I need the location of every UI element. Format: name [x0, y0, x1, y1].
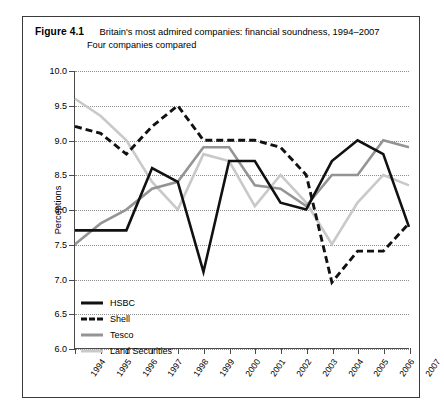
x-axis-tick-label: 1999: [217, 357, 236, 378]
x-axis-tick: [281, 348, 282, 354]
legend-item-label: Land Securities: [110, 346, 172, 356]
x-axis-tick: [255, 348, 256, 354]
legend-swatch-icon: [81, 330, 103, 341]
y-axis-tick-label: 8.0: [54, 205, 67, 215]
legend-item-label: HSBC: [110, 298, 135, 308]
legend-item: Shell: [81, 311, 221, 327]
y-axis-tick-label: 7.0: [54, 275, 67, 285]
legend-item: Tesco: [81, 327, 221, 343]
figure-subtitle: Four companies compared: [87, 39, 411, 51]
y-axis-tick-label: 6.0: [54, 344, 67, 354]
x-axis-tick-label: 2001: [269, 357, 288, 378]
x-axis-tick: [384, 348, 385, 354]
x-axis-tick: [307, 348, 308, 354]
x-axis-tick: [230, 348, 231, 354]
legend-swatch-icon: [81, 298, 103, 309]
figure-number: Figure 4.1: [35, 26, 84, 37]
chart-legend: HSBCShellTescoLand Securities: [81, 295, 221, 359]
x-axis-tick-label: 2000: [243, 357, 262, 378]
legend-item: HSBC: [81, 295, 221, 311]
x-axis-tick: [410, 348, 411, 354]
x-axis-tick-label: 2007: [423, 357, 442, 378]
y-axis-tick-label: 8.5: [54, 170, 67, 180]
x-axis-tick-label: 1997: [165, 357, 184, 378]
x-axis-tick: [358, 348, 359, 354]
y-axis-tick-label: 9.0: [54, 136, 67, 146]
x-axis-tick-label: 2005: [372, 357, 391, 378]
x-axis-tick-label: 1996: [140, 357, 159, 378]
x-axis-tick: [333, 348, 334, 354]
x-axis-tick-label: 2002: [294, 357, 313, 378]
legend-swatch-icon: [81, 346, 103, 357]
figure-title-block: Figure 4.1 Britain's most admired compan…: [35, 26, 411, 51]
series-line: [75, 140, 409, 244]
legend-item-label: Shell: [110, 314, 130, 324]
x-axis-tick-label: 1994: [88, 357, 107, 378]
y-axis-tick-label: 10.0: [49, 66, 67, 76]
x-axis-tick-label: 1998: [191, 357, 210, 378]
x-axis-tick-label: 1995: [114, 357, 133, 378]
y-axis-tick-label: 6.5: [54, 309, 67, 319]
legend-item-label: Tesco: [110, 330, 134, 340]
x-axis-tick: [75, 348, 76, 354]
figure-title-line: Figure 4.1 Britain's most admired compan…: [35, 26, 411, 38]
series-line: [75, 106, 409, 283]
legend-item: Land Securities: [81, 343, 221, 359]
y-axis-tick-label: 9.5: [54, 101, 67, 111]
figure-title-text: Britain's most admired companies: financ…: [99, 26, 379, 37]
x-axis-tick-label: 2004: [346, 357, 365, 378]
x-axis-tick-label: 2006: [397, 357, 416, 378]
x-axis-tick-label: 2003: [320, 357, 339, 378]
y-axis-tick-label: 7.5: [54, 240, 67, 250]
figure-container: Figure 4.1 Britain's most admired compan…: [22, 16, 420, 398]
legend-swatch-icon: [81, 314, 103, 325]
